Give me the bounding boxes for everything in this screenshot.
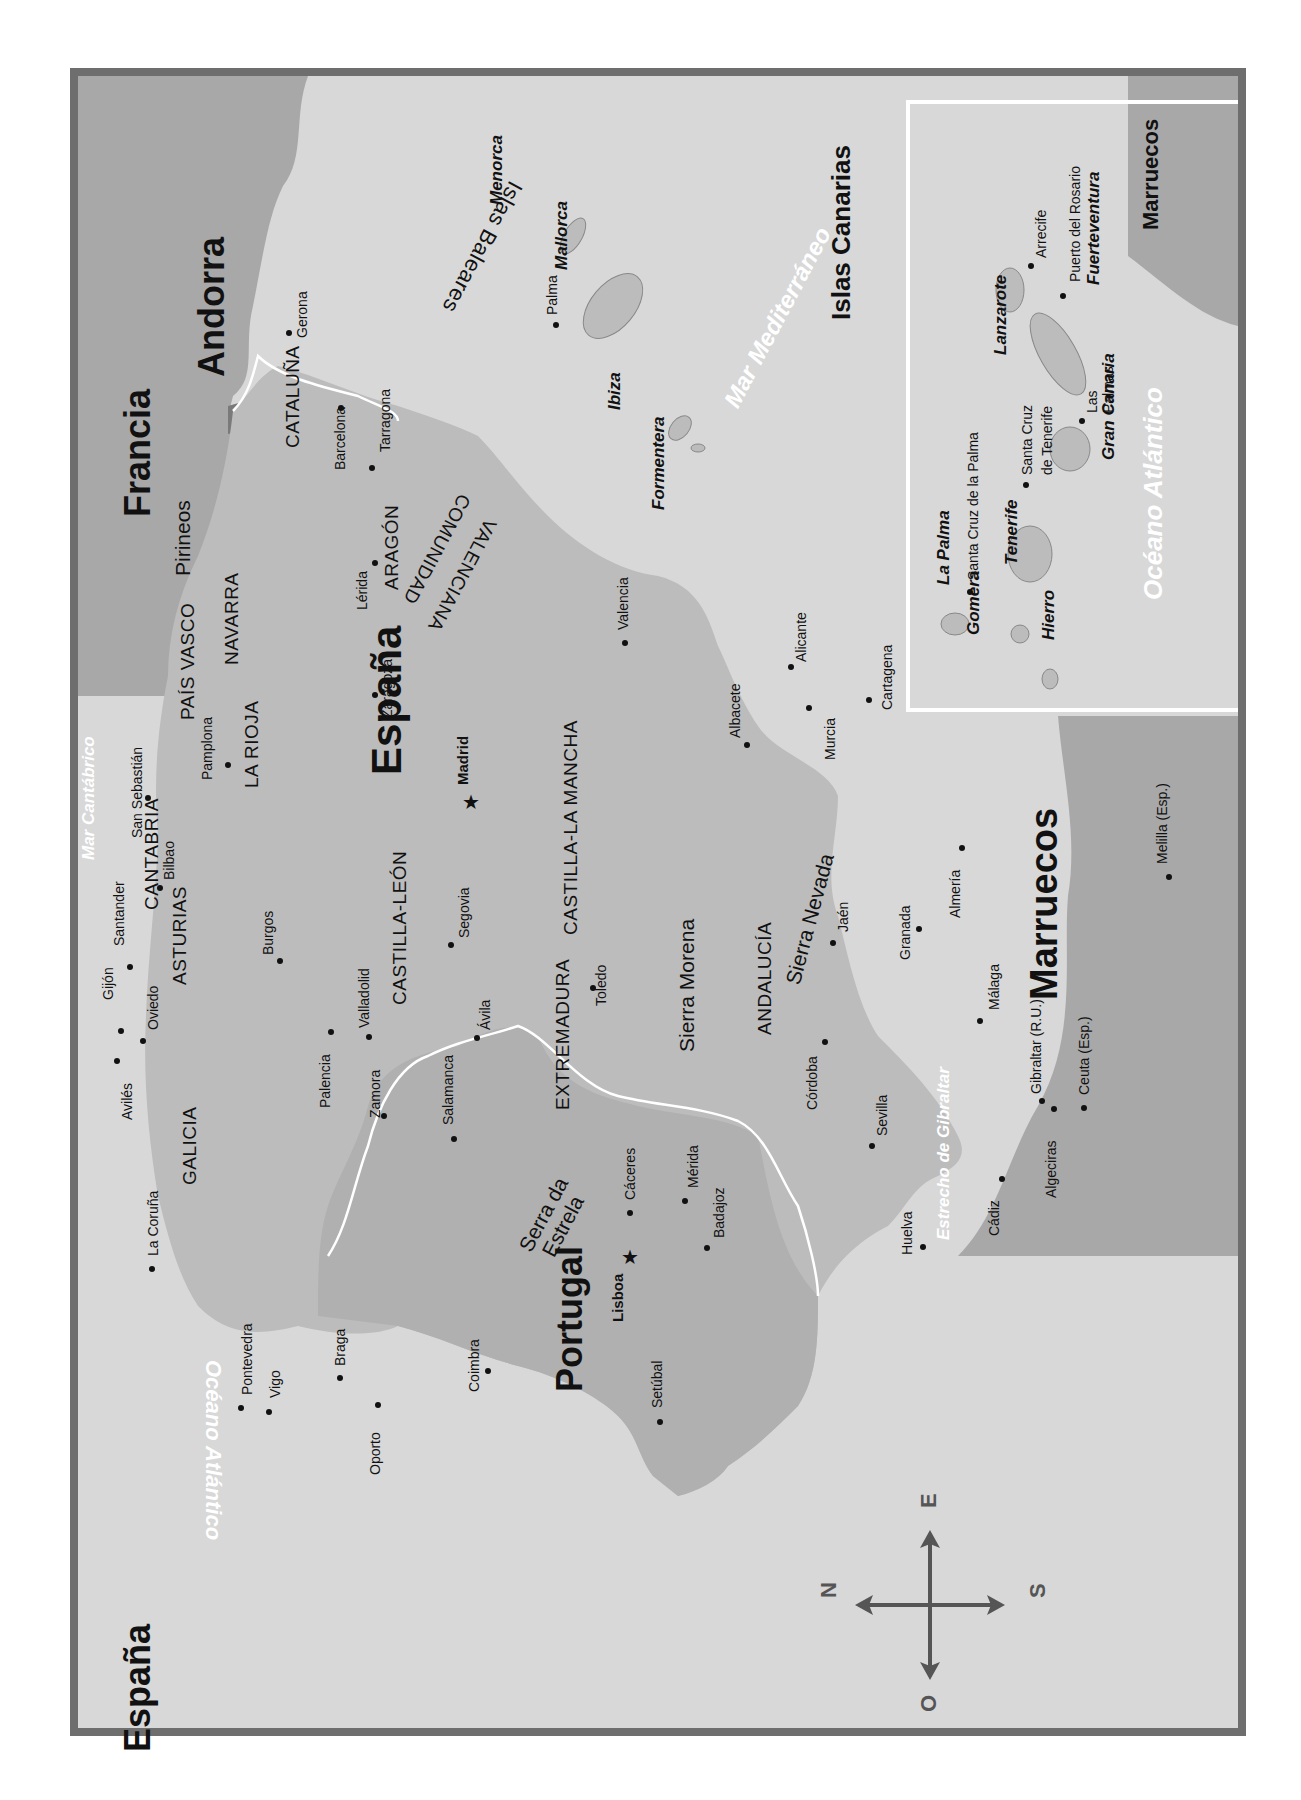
label-asturias: ASTURIAS <box>170 886 189 985</box>
label-pirineos: Pirineos <box>172 500 193 576</box>
label-cordoba: Córdoba <box>805 1056 819 1110</box>
label-fuerteventura: Fuerteventura <box>1085 172 1102 285</box>
label-palencia: Palencia <box>318 1054 332 1108</box>
label-oceano-atlantico: Océano Atlántico <box>202 1360 224 1540</box>
label-espana-corner: España <box>120 1624 156 1752</box>
label-gomera: Gomera <box>965 571 982 635</box>
label-coimbra: Coimbra <box>467 1339 481 1392</box>
city-dot <box>448 942 454 948</box>
city-dot <box>920 1244 926 1250</box>
label-gibraltar: Gibraltar (R.U.) <box>1029 999 1043 1094</box>
label-andalucia: ANDALUCÍA <box>755 922 774 1035</box>
city-dot <box>1060 293 1066 299</box>
label-san-sebastian: San Sebastián <box>130 747 144 838</box>
capital-star-madrid: ★ <box>462 792 480 812</box>
city-dot <box>140 1038 146 1044</box>
city-dot <box>977 1018 983 1024</box>
compass-west: O <box>918 1695 940 1712</box>
label-badajoz: Badajoz <box>712 1187 726 1238</box>
label-almeria: Almería <box>948 870 962 918</box>
label-zaragoza: Zaragoza <box>380 659 394 718</box>
label-burgos: Burgos <box>261 911 275 955</box>
label-la-coruna: La Coruña <box>146 1191 160 1256</box>
label-pontevedra: Pontevedra <box>240 1323 254 1395</box>
label-toledo: Toledo <box>594 965 608 1006</box>
city-dot <box>375 1402 381 1408</box>
label-navarra: NAVARRA <box>222 572 241 665</box>
city-dot <box>328 1029 334 1035</box>
label-madrid: Madrid <box>455 736 470 785</box>
city-dot <box>1028 263 1034 269</box>
compass-south: S <box>1027 1583 1049 1598</box>
label-la-rioja: LA RIOJA <box>242 701 261 788</box>
label-merida: Mérida <box>686 1145 700 1188</box>
compass-rose <box>845 1520 1015 1690</box>
label-alicante: Alicante <box>794 612 808 662</box>
label-setubal: Setúbal <box>650 1361 664 1408</box>
city-dot <box>866 697 872 703</box>
city-dot <box>474 1035 480 1041</box>
city-dot <box>149 1266 155 1272</box>
label-jaen: Jaén <box>836 902 850 932</box>
city-dot <box>822 1039 828 1045</box>
label-marruecos: Marruecos <box>1025 808 1063 1000</box>
label-la-palma: La Palma <box>935 510 952 585</box>
label-salamanca: Salamanca <box>441 1055 455 1125</box>
city-dot <box>372 560 378 566</box>
city-dot <box>622 640 628 646</box>
label-pais-vasco: PAÍS VASCO <box>178 603 197 720</box>
city-dot <box>225 762 231 768</box>
city-dot <box>145 795 151 801</box>
label-cartagena: Cartagena <box>880 645 894 710</box>
city-dot <box>337 1375 343 1381</box>
label-tenerife: Tenerife <box>1003 499 1020 565</box>
label-sierra-morena: Sierra Morena <box>676 919 697 1052</box>
city-dot <box>657 1419 663 1425</box>
inset-label-oceano: Océano Atlántico <box>1140 387 1166 600</box>
label-lanzarote: Lanzarote <box>992 275 1009 355</box>
label-aviles: Avilés <box>120 1083 134 1120</box>
label-barcelona: Barcelona <box>333 407 347 470</box>
label-valencia: Valencia <box>616 577 630 630</box>
label-santa-cruz-palma: Santa Cruz de la Palma <box>966 432 980 580</box>
label-segovia: Segovia <box>457 887 471 938</box>
label-tarragona: Tarragona <box>378 389 392 452</box>
city-dot <box>682 1198 688 1204</box>
label-menorca: Menorca <box>488 135 505 205</box>
label-cadiz: Cádiz <box>987 1200 1001 1236</box>
inset-label-marruecos: Marruecos <box>1140 119 1162 230</box>
label-lisboa: Lisboa <box>610 1274 625 1322</box>
label-caceres: Cáceres <box>623 1148 637 1200</box>
label-puerto-rosario: Puerto del Rosario <box>1068 166 1082 282</box>
city-dot <box>266 1409 272 1415</box>
label-malaga: Málaga <box>987 964 1001 1010</box>
label-castilla-la-mancha: CASTILLA-LA MANCHA <box>561 720 580 935</box>
city-dot <box>999 1176 1005 1182</box>
label-huelva: Huelva <box>900 1211 914 1255</box>
city-dot <box>114 1058 120 1064</box>
city-dot <box>806 705 812 711</box>
label-valladolid: Valladolid <box>357 968 371 1028</box>
city-dot <box>1081 1105 1087 1111</box>
city-dot <box>704 1245 710 1251</box>
label-avila: Ávila <box>478 1000 492 1030</box>
city-dot <box>369 465 375 471</box>
label-galicia: GALICIA <box>180 1107 199 1185</box>
label-las-palmas-2: Palmas <box>1101 366 1115 413</box>
label-ibiza: Ibiza <box>606 372 623 410</box>
label-santa-cruz-tenerife-1: Santa Cruz <box>1020 405 1034 475</box>
city-dot <box>277 958 283 964</box>
label-oporto: Oporto <box>368 1432 382 1475</box>
city-dot <box>627 1210 633 1216</box>
label-lerida: Lérida <box>355 571 369 610</box>
label-granada: Granada <box>898 906 912 960</box>
city-dot <box>286 330 292 336</box>
label-estrecho-gibraltar: Estrecho de Gibraltar <box>935 1067 952 1240</box>
label-oviedo: Oviedo <box>146 986 160 1030</box>
label-ceuta: Ceuta (Esp.) <box>1077 1016 1091 1095</box>
compass-east: E <box>918 1493 940 1508</box>
city-dot <box>485 1368 491 1374</box>
city-dot <box>959 845 965 851</box>
city-dot <box>967 589 973 595</box>
label-palma: Palma <box>545 275 559 315</box>
